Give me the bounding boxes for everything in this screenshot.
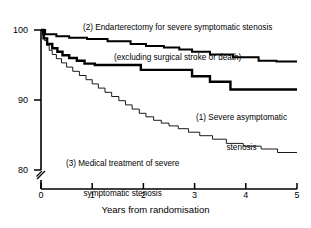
annotation-asymptomatic-line2: stenosis xyxy=(196,143,287,153)
survival-chart: 100 90 80 0 1 2 3 4 5 Years from randomi… xyxy=(0,0,311,228)
y-tick-label-90: 90 xyxy=(4,95,28,105)
annotation-medical: (3) Medical treatment of severe symptoma… xyxy=(66,139,179,219)
x-tick-label-5: 5 xyxy=(287,190,307,200)
annotation-asymptomatic-line1: (1) Severe asymptomatic xyxy=(196,113,287,123)
annotation-medical-line2: symptomatic stenosis xyxy=(66,189,179,199)
y-tick-label-100: 100 xyxy=(4,25,28,35)
x-tick-label-0: 0 xyxy=(31,190,51,200)
x-tick-label-4: 4 xyxy=(236,190,256,200)
y-tick-label-80: 80 xyxy=(4,165,28,175)
x-tick-label-3: 3 xyxy=(185,190,205,200)
annotation-asymptomatic: (1) Severe asymptomatic stenosis xyxy=(196,93,287,173)
annotation-endarterectomy-line2: (excluding surgical stroke or death) xyxy=(83,53,272,63)
annotation-endarterectomy: (2) Endarterectomy for severe symptomati… xyxy=(83,3,272,83)
annotation-medical-line1: (3) Medical treatment of severe xyxy=(66,159,179,169)
annotation-endarterectomy-line1: (2) Endarterectomy for severe symptomati… xyxy=(83,23,272,33)
